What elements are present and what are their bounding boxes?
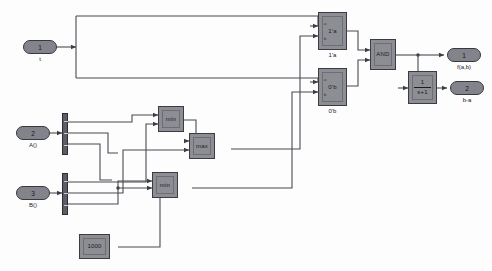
- wire-relbot-to-and: [347, 60, 370, 86]
- demux-a-tap-3: [64, 145, 68, 146]
- wire-reltop-to-and: [347, 31, 370, 50]
- output-port-2-number: 2: [465, 85, 469, 92]
- output-port-2[interactable]: 2: [450, 81, 484, 95]
- max-block[interactable]: max: [189, 133, 215, 159]
- output-port-1-number: 1: [462, 52, 466, 59]
- wire-demuxb-1: [68, 124, 158, 182]
- input-port-2-number: 2: [31, 130, 35, 137]
- relational-bottom-caption: 0'b: [318, 108, 347, 114]
- tf-numerator: 1: [421, 79, 425, 86]
- max-block-label: max: [196, 143, 208, 149]
- wire-const: [118, 196, 160, 247]
- relational-block-top[interactable]: a b 1'a: [318, 12, 347, 50]
- min-block-bottom[interactable]: min: [152, 172, 178, 198]
- and-block-label: AND: [376, 51, 389, 57]
- input-port-3-caption: B(): [16, 202, 50, 208]
- input-port-1-caption: t: [23, 56, 57, 62]
- demux-b-tap-1: [64, 181, 68, 182]
- transfer-function-block[interactable]: 1 s+1: [408, 71, 437, 104]
- relational-top-label: 1'a: [328, 28, 336, 34]
- relational-top-pin-b: b: [324, 37, 326, 41]
- input-port-2[interactable]: 2: [16, 126, 50, 140]
- relational-top-pin-a: a: [324, 22, 326, 26]
- min-block-top-label: min: [166, 116, 176, 122]
- input-port-3[interactable]: 3: [16, 186, 50, 200]
- demux-b[interactable]: [62, 173, 68, 215]
- demux-b-tap-2: [64, 193, 68, 194]
- relational-top-caption: 1'a: [318, 52, 347, 58]
- output-port-1-caption: f(a,b): [443, 64, 485, 70]
- relational-bottom-pin-b: b: [324, 93, 326, 97]
- tf-denominator: s+1: [417, 89, 427, 96]
- input-port-1[interactable]: 1: [23, 40, 57, 54]
- wire-max-to-rel-top: [231, 36, 318, 149]
- wire-demuxa-1: [68, 115, 158, 122]
- constant-block[interactable]: 1000: [79, 234, 110, 259]
- tf-fraction-bar: [414, 87, 431, 88]
- and-block[interactable]: AND: [370, 39, 396, 70]
- demux-a-tap-1: [64, 121, 68, 122]
- relational-block-bottom[interactable]: a b 0'b: [318, 68, 347, 106]
- relational-bottom-pin-a: a: [324, 78, 326, 82]
- wire-demuxb-3: [68, 181, 152, 204]
- demux-a[interactable]: [62, 113, 68, 155]
- demux-a-tap-2: [64, 133, 68, 134]
- relational-bottom-label: 0'b: [328, 84, 336, 90]
- block-diagram-canvas: 1 t 2 A() 3 B() a b 1'a 1'a a b 0'b 0'b …: [0, 0, 492, 271]
- min-block-top[interactable]: min: [158, 106, 184, 132]
- wire-layer: [0, 0, 492, 271]
- constant-block-label: 1000: [87, 243, 101, 249]
- input-port-3-number: 3: [31, 190, 35, 197]
- input-port-1-number: 1: [38, 44, 42, 51]
- min-block-bottom-label: min: [160, 182, 170, 188]
- demux-b-tap-3: [64, 205, 68, 206]
- input-port-2-caption: A(): [16, 142, 50, 148]
- output-port-1[interactable]: 1: [447, 48, 481, 62]
- output-port-2-caption: b-a: [450, 97, 484, 103]
